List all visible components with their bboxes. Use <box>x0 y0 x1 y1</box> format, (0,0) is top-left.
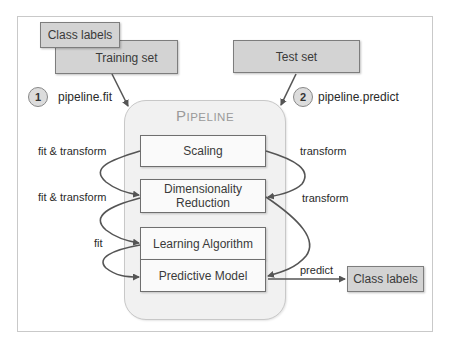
fit-transform-arrow-1 <box>100 151 140 195</box>
fit-arrow <box>103 245 140 277</box>
transform-arrow-2 <box>266 197 310 276</box>
transform-arrow-1 <box>266 151 305 197</box>
fit-transform-arrow-2 <box>100 198 140 243</box>
flow-arrows <box>0 0 449 343</box>
test-to-pipeline-arrow <box>281 74 296 105</box>
training-to-pipeline-arrow <box>112 74 128 106</box>
